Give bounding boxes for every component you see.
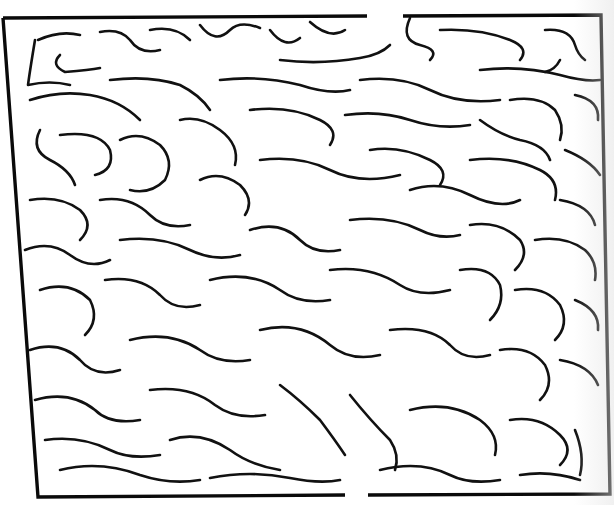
maze-wall: [360, 79, 500, 102]
maze-wall: [480, 120, 550, 160]
maze-wall: [30, 347, 120, 373]
maze-wall: [380, 466, 500, 482]
maze-wall: [170, 437, 280, 470]
maze-wall: [280, 45, 390, 62]
maze-wall: [150, 29, 190, 40]
maze-wall: [407, 18, 434, 60]
maze-wall: [38, 33, 80, 40]
maze-wall: [210, 277, 330, 302]
maze-wall: [510, 419, 568, 465]
maze-wall: [100, 31, 160, 51]
maze-wall: [25, 246, 110, 264]
maze-wall: [28, 40, 70, 85]
maze-canvas: [0, 0, 614, 505]
maze-wall: [350, 395, 397, 470]
maze-wall: [270, 30, 300, 43]
maze-wall: [520, 473, 580, 480]
maze-wall: [260, 327, 380, 357]
maze-wall: [105, 279, 200, 307]
maze-wall: [180, 119, 236, 165]
maze-wall: [500, 349, 549, 400]
maze-wall: [510, 99, 562, 140]
maze-wall: [460, 269, 501, 320]
maze-border-segment: [3, 16, 367, 18]
maze-wall: [60, 134, 111, 175]
maze-wall: [250, 109, 333, 145]
maze-border-segment: [3, 18, 345, 497]
maze-wall: [410, 186, 520, 204]
maze-wall: [45, 439, 160, 457]
maze-wall: [390, 329, 490, 357]
maze-wall: [200, 176, 249, 215]
maze-wall: [56, 55, 100, 72]
maze-wall: [310, 22, 345, 34]
maze-wall: [410, 407, 496, 455]
maze-wall: [210, 474, 340, 482]
maze-wall: [130, 337, 250, 362]
maze-wall: [200, 24, 260, 36]
maze-wall: [345, 113, 470, 126]
maze-wall: [150, 389, 265, 416]
maze-wall: [350, 219, 460, 237]
maze-walls: [25, 18, 600, 482]
maze-wall: [120, 136, 169, 191]
maze-wall: [60, 466, 200, 482]
maze-wall: [280, 385, 345, 455]
maze-wall: [100, 199, 190, 226]
maze-wall: [250, 227, 340, 252]
maze-wall: [470, 159, 556, 200]
maze-wall: [110, 78, 210, 110]
maze-wall: [330, 269, 450, 293]
maze-wall: [260, 159, 400, 179]
maze-wall: [545, 60, 560, 72]
maze-wall: [40, 287, 94, 335]
maze-wall: [35, 397, 140, 422]
maze-wall: [120, 239, 240, 258]
maze-wall: [30, 199, 88, 240]
maze-wall: [30, 93, 140, 120]
maze-wall: [37, 130, 75, 185]
maze-wall: [440, 30, 523, 60]
maze-wall: [220, 78, 350, 91]
maze-wall: [515, 289, 564, 340]
maze-wall: [470, 224, 524, 270]
paper-shadow: [574, 0, 614, 505]
